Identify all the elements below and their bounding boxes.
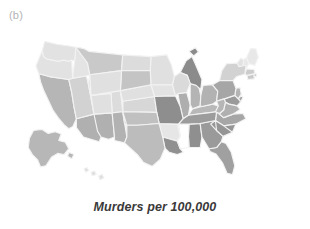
state-ma: Massachusetts: 2.6 murders per 100,000 bbox=[245, 69, 255, 75]
choropleth-map: Alabama: 8 murders per 100,000Alaska: 5.… bbox=[14, 22, 296, 198]
state-wa: Washington: 2.6 murders per 100,000 bbox=[42, 41, 75, 61]
panel-label: (b) bbox=[9, 9, 23, 22]
state-mn: Minnesota: 1.9 murders per 100,000 bbox=[150, 55, 174, 85]
state-hi: Hawaii: 2.3 murders per 100,000 bbox=[84, 167, 104, 179]
state-ia: Iowa: 1.8 murders per 100,000 bbox=[151, 85, 176, 97]
state-ak: Alaska: 5.6 murders per 100,000 bbox=[28, 129, 74, 167]
state-al: Alabama: 8 murders per 100,000 bbox=[188, 123, 201, 147]
map-caption: Murders per 100,000 bbox=[0, 200, 310, 215]
us-states-map: Alabama: 8 murders per 100,000Alaska: 5.… bbox=[14, 22, 296, 198]
figure-panel: (b) Alabama: 8 murders per 100,000Alaska… bbox=[0, 0, 310, 229]
state-vt: Vermont: 1.4 murders per 100,000 bbox=[237, 58, 243, 66]
state-la: Louisiana: 9.8 murders per 100,000 bbox=[163, 137, 184, 155]
state-nd: North Dakota: 2.4 murders per 100,000 bbox=[122, 55, 151, 71]
state-wi: Wisconsin: 2.4 murders per 100,000 bbox=[173, 72, 191, 95]
states-layer: Alabama: 8 murders per 100,000Alaska: 5.… bbox=[28, 41, 258, 179]
state-tx: Texas: 4.9 murders per 100,000 bbox=[124, 123, 164, 166]
state-wy: Wyoming: 2.7 murders per 100,000 bbox=[90, 71, 122, 96]
state-ri: Rhode Island: 3.3 murders per 100,000 bbox=[254, 73, 256, 77]
